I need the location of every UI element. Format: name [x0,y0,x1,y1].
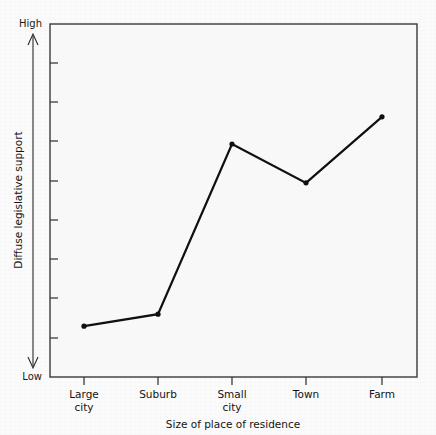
x-label-suburb-line1: Suburb [139,388,177,400]
y-axis-high-label: High [19,18,42,29]
chart-figure: High Low Diffuse legislative support Lar… [0,0,436,435]
data-point [81,324,86,329]
data-point [303,180,308,185]
x-label-large-city-line2: city [74,401,93,413]
line-chart: High Low Diffuse legislative support Lar… [0,0,436,435]
x-label-farm-line1: Farm [369,388,395,400]
y-axis-low-label: Low [22,371,42,382]
data-point [155,312,160,317]
data-point [229,141,234,146]
plot-area [50,24,417,377]
x-label-small-city-line1: Small [217,388,246,400]
x-label-large-city-line1: Large [69,388,99,400]
data-point [379,114,384,119]
y-axis-title: Diffuse legislative support [12,131,24,268]
x-axis-title: Size of place of residence [166,418,300,430]
x-axis-labels: Large city Suburb Small city Town Farm [69,388,395,413]
x-label-small-city-line2: city [222,401,241,413]
x-label-town-line1: Town [292,388,319,400]
y-axis-arrow [28,34,38,368]
x-axis-ticks [84,377,382,385]
